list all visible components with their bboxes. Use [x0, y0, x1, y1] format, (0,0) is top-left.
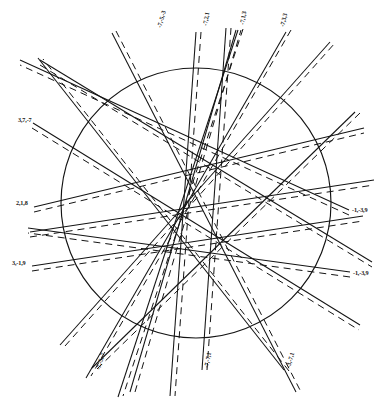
solid-line: [30, 180, 374, 232]
solid-line: [38, 58, 284, 370]
line-arrangement-figure: -7,-5,-3-7,2,1-7,1,3-7,3,33,7,-72,1,83,-…: [0, 0, 388, 405]
line-label--7,2,1: -7,2,1: [201, 12, 210, 27]
line-label--7,-5,-3: -7,-5,-3: [155, 10, 167, 29]
line-pair--7,1,3: [118, 29, 243, 397]
line-pair--7,2,1: [170, 32, 201, 396]
solid-line: [40, 60, 372, 262]
aux-line-pair-aux-3: [60, 42, 335, 346]
line-layer: [20, 28, 374, 397]
line-label--7,3,3: -7,3,3: [278, 12, 288, 27]
solid-line: [34, 128, 364, 207]
solid-line: [202, 28, 226, 370]
diagram-canvas: -7,-5,-3-7,2,1-7,1,3-7,3,33,7,-72,1,83,-…: [0, 0, 388, 405]
line-label-3,-1,9: 3,-1,9: [12, 259, 26, 266]
line-label--3,-7,1: -3,-7,1: [284, 351, 295, 368]
dashed-line: [28, 233, 350, 277]
solid-line: [60, 42, 330, 345]
line-pair-3,7,-7: [32, 123, 360, 330]
line-pair--3,-7,1: [38, 58, 289, 371]
line-label--7,1,3: -7,1,3: [238, 11, 247, 26]
dashed-line: [116, 31, 300, 390]
dashed-line: [207, 28, 231, 370]
solid-line: [92, 112, 355, 368]
line-pair--1,-3,9b: [28, 228, 350, 277]
line-label--7,-5,-7: -7,-5,-7: [94, 352, 106, 371]
line-label--1,-3,9: -1,-3,9: [352, 206, 368, 213]
solid-line: [32, 216, 363, 266]
dashed-line: [43, 59, 289, 371]
line-label-3,7,-7: 3,7,-7: [18, 116, 32, 123]
solid-line: [86, 32, 286, 378]
line-label--1,-3,9b: -1,-3,9: [353, 269, 369, 276]
dashed-line: [32, 221, 363, 271]
line-label-2,1,8: 2,1,8: [16, 199, 28, 206]
